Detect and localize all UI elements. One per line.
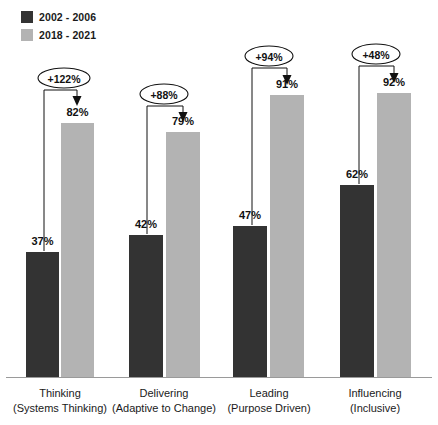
category-main-delivering: Delivering	[104, 386, 224, 401]
category-sub-influencing: (Inclusive)	[315, 401, 435, 416]
bar-chart: 2002 - 2006 2018 - 2021 37% 82% 42% 79% …	[0, 0, 438, 425]
value-label-thinking-2002-2006: 37%	[26, 235, 59, 247]
plot-area: 37% 82% 42% 79% 47% 91% 62% 92%	[0, 0, 438, 378]
value-label-delivering-2018-2021: 79%	[166, 115, 200, 127]
value-label-influencing-2018-2021: 92%	[377, 76, 411, 88]
bar-delivering-2002-2006	[129, 235, 163, 378]
bar-delivering-2018-2021	[166, 132, 200, 378]
bar-influencing-2018-2021	[377, 93, 411, 378]
bar-influencing-2002-2006	[340, 185, 374, 378]
category-main-leading: Leading	[209, 386, 329, 401]
category-main-thinking: Thinking	[0, 386, 120, 401]
x-axis-labels: Thinking (Systems Thinking) Delivering (…	[0, 382, 438, 425]
category-label-leading: Leading (Purpose Driven)	[209, 386, 329, 416]
category-sub-leading: (Purpose Driven)	[209, 401, 329, 416]
category-sub-thinking: (Systems Thinking)	[0, 401, 120, 416]
bar-thinking-2002-2006	[26, 252, 59, 378]
bar-leading-2002-2006	[233, 226, 267, 378]
category-label-influencing: Influencing (Inclusive)	[315, 386, 435, 416]
category-label-thinking: Thinking (Systems Thinking)	[0, 386, 120, 416]
category-label-delivering: Delivering (Adaptive to Change)	[104, 386, 224, 416]
category-main-influencing: Influencing	[315, 386, 435, 401]
bar-thinking-2018-2021	[61, 123, 94, 378]
value-label-leading-2002-2006: 47%	[233, 209, 267, 221]
category-sub-delivering: (Adaptive to Change)	[104, 401, 224, 416]
value-label-leading-2018-2021: 91%	[270, 78, 304, 90]
x-axis-baseline	[6, 377, 432, 378]
value-label-influencing-2002-2006: 62%	[340, 168, 374, 180]
value-label-delivering-2002-2006: 42%	[129, 218, 163, 230]
value-label-thinking-2018-2021: 82%	[61, 106, 94, 118]
bar-leading-2018-2021	[270, 95, 304, 378]
